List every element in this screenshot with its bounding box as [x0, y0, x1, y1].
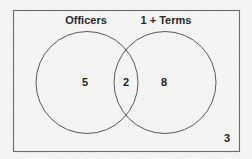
count-outside-universe: 3 [224, 132, 230, 144]
count-one-plus-terms-only: 8 [161, 76, 167, 88]
count-intersection: 2 [123, 76, 129, 88]
venn-diagram-canvas: Officers 1 + Terms 5 2 8 3 [0, 0, 252, 159]
venn-diagram-figure: Officers 1 + Terms 5 2 8 3 [0, 0, 252, 159]
count-officers-only: 5 [82, 76, 88, 88]
set-label-one-plus-terms: 1 + Terms [141, 14, 192, 26]
set-label-officers: Officers [65, 14, 107, 26]
